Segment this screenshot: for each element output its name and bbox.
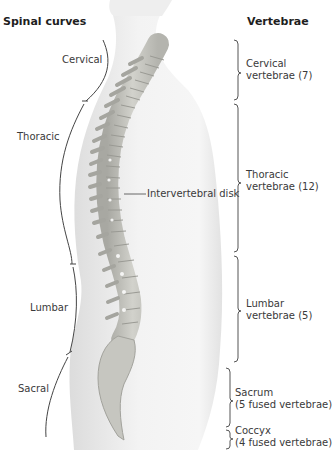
vertebrae-coccyx-line2: (4 fused vertebrae)	[235, 437, 332, 449]
curve-sacral	[46, 357, 68, 437]
curve-label-lumbar: Lumbar	[30, 302, 68, 314]
vertebrae-lumbar-line1: Lumbar	[246, 298, 312, 310]
vertebrae-lumbar-line2: vertebrae (5)	[246, 310, 312, 322]
curve-label-sacral: Sacral	[18, 383, 49, 395]
vertebrae-label-coccyx: Coccyx (4 fused vertebrae)	[235, 425, 332, 449]
intervertebral-disk-label: Intervertebral disk	[147, 188, 239, 200]
vertebrae-cervical-line1: Cervical	[246, 58, 312, 70]
vertebrae-label-lumbar: Lumbar vertebrae (5)	[246, 298, 312, 322]
vertebrae-cervical-line2: vertebrae (7)	[246, 70, 312, 82]
vertebrae-label-cervical: Cervical vertebrae (7)	[246, 58, 312, 82]
curve-label-thoracic: Thoracic	[17, 131, 60, 143]
vertebrae-sacrum-line2: (5 fused vertebrae)	[235, 399, 332, 411]
vertebrae-sacrum-line1: Sacrum	[235, 387, 332, 399]
spinal-curves-heading: Spinal curves	[3, 15, 86, 28]
vertebrae-label-sacrum: Sacrum (5 fused vertebrae)	[235, 387, 332, 411]
vertebrae-coccyx-line1: Coccyx	[235, 425, 332, 437]
vertebrae-label-thoracic: Thoracic vertebrae (12)	[246, 169, 319, 193]
curve-label-cervical: Cervical	[62, 54, 102, 66]
vertebrae-thoracic-line2: vertebrae (12)	[246, 181, 319, 193]
vertebrae-thoracic-line1: Thoracic	[246, 169, 319, 181]
vertebrae-heading: Vertebrae	[247, 15, 309, 28]
head-silhouette	[109, 0, 172, 16]
